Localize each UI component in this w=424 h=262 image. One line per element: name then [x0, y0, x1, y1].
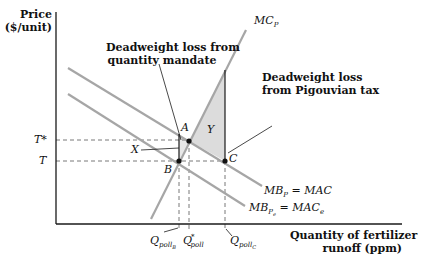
- x-axis-label-line2: runoff (ppm): [290, 242, 402, 255]
- x-leader: [141, 148, 179, 150]
- q-poll-star-label: Q*poll: [183, 233, 204, 249]
- point-c: [222, 158, 227, 163]
- point-c-label: C: [229, 152, 237, 165]
- x-axis-label-line1: Quantity of fertilizer: [290, 229, 402, 242]
- tax-annotation: Deadweight loss from Pigouvian tax: [262, 71, 354, 97]
- y-axis-label-line1: Price: [4, 8, 52, 21]
- q-b-leader: [164, 228, 178, 232]
- region-y-label: Y: [207, 123, 214, 136]
- y-axis-label: Price ($/unit): [4, 8, 52, 34]
- point-b: [176, 158, 181, 163]
- t-star-label: T*: [34, 133, 47, 146]
- region-x-label: X: [131, 143, 139, 156]
- y-axis-label-line2: ($/unit): [4, 21, 52, 34]
- point-a-label: A: [181, 121, 189, 134]
- t-label: T: [39, 154, 46, 167]
- mb-upper-label: MBP = MAC: [264, 184, 332, 199]
- x-axis-label: Quantity of fertilizer runoff (ppm): [290, 229, 402, 255]
- mandate-leader: [159, 64, 181, 140]
- q-poll-c-label: QpollC: [230, 234, 256, 251]
- point-b-label: B: [164, 163, 172, 176]
- q-poll-b-label: QpollB: [150, 234, 176, 251]
- mc-label: MCP: [254, 14, 278, 29]
- tax-leader: [228, 126, 272, 153]
- mb-lower-label: MBPe = MACe: [249, 201, 324, 218]
- mandate-annotation: Deadweight loss from quantity mandate: [106, 41, 218, 67]
- point-a: [186, 138, 191, 143]
